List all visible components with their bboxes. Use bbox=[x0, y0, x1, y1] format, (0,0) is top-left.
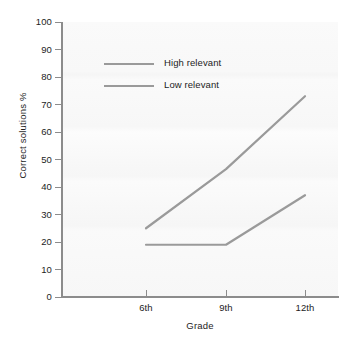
line-chart: 0102030405060708090100 6th9th12th Correc… bbox=[0, 0, 351, 345]
x-tick-mark bbox=[226, 290, 227, 298]
legend-label: High relevant bbox=[164, 56, 221, 70]
y-tick-mark bbox=[55, 187, 63, 188]
x-tick-label: 12th bbox=[285, 302, 325, 313]
y-tick-mark bbox=[55, 242, 63, 243]
x-tick-mark bbox=[146, 290, 147, 298]
x-axis-title: Grade bbox=[62, 320, 338, 331]
y-tick-label: 20 bbox=[12, 237, 52, 247]
y-tick-mark bbox=[55, 49, 63, 50]
legend-item-high-relevant: High relevant bbox=[104, 55, 274, 77]
y-axis-line bbox=[61, 22, 63, 298]
y-tick-label: 100 bbox=[12, 17, 52, 27]
y-tick-label: 90 bbox=[12, 45, 52, 55]
y-tick-mark bbox=[55, 77, 63, 78]
x-axis-line bbox=[61, 296, 339, 298]
y-tick-mark bbox=[55, 214, 63, 215]
y-tick-mark bbox=[55, 297, 63, 298]
legend-swatch-icon bbox=[104, 85, 154, 87]
x-tick-label: 6th bbox=[126, 302, 166, 313]
y-tick-mark bbox=[55, 132, 63, 133]
y-tick-label: 30 bbox=[12, 210, 52, 220]
x-tick-mark bbox=[305, 290, 306, 298]
legend-item-low-relevant: Low relevant bbox=[104, 77, 274, 99]
y-tick-mark bbox=[55, 269, 63, 270]
y-tick-mark bbox=[55, 104, 63, 105]
y-axis-title: Correct solutions % bbox=[17, 76, 28, 196]
y-tick-label: 0 bbox=[12, 292, 52, 302]
series-line-high-relevant bbox=[146, 96, 305, 228]
legend-label: Low relevant bbox=[164, 78, 219, 92]
x-tick-label: 9th bbox=[206, 302, 246, 313]
legend-swatch-icon bbox=[104, 63, 154, 65]
series-line-low-relevant bbox=[146, 195, 305, 245]
y-tick-mark bbox=[55, 22, 63, 23]
y-tick-mark bbox=[55, 159, 63, 160]
y-tick-label: 10 bbox=[12, 265, 52, 275]
legend: High relevant Low relevant bbox=[104, 55, 274, 99]
